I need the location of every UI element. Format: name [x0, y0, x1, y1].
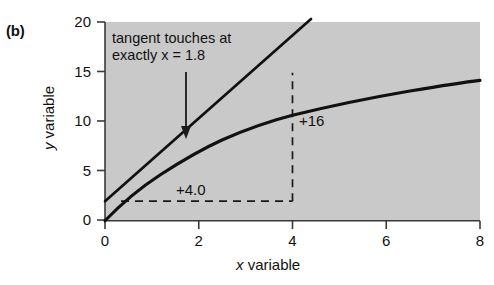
y-tick-label-15: 15: [55, 63, 91, 80]
y-axis-title-rest: variable: [40, 86, 57, 143]
panel-label: (b): [6, 22, 25, 39]
tangent-note-line2-prefix: exactly: [112, 47, 161, 63]
x-axis-title: x variable: [236, 256, 300, 273]
x-tick-label-2: 2: [185, 232, 213, 249]
y-tick-label-5: 5: [55, 162, 91, 179]
x-tick-label-6: 6: [372, 232, 400, 249]
tangent-note-line2-rest: = 1.8: [168, 47, 205, 63]
y-axis-title: y variable: [40, 63, 57, 173]
chart-svg: [0, 0, 494, 285]
figure-panel-b: (b): [0, 0, 494, 285]
y-tick-label-0: 0: [55, 211, 91, 228]
tangent-note-line2: exactly x = 1.8: [112, 47, 231, 64]
x-tick-label-8: 8: [466, 232, 494, 249]
y-tick-label-20: 20: [55, 13, 91, 30]
tangent-note: tangent touches at exactly x = 1.8: [112, 30, 231, 64]
y-axis-title-var: y: [40, 143, 57, 151]
x-axis-title-var: x: [236, 256, 244, 273]
y-tick-label-10: 10: [55, 112, 91, 129]
delta-y-label: +16: [299, 112, 324, 129]
y-axis-ticks: [97, 22, 105, 220]
x-axis-ticks: [105, 221, 480, 229]
x-tick-label-4: 4: [279, 232, 307, 249]
x-tick-label-0: 0: [91, 232, 119, 249]
delta-x-label: +4.0: [176, 181, 206, 198]
x-axis-title-rest: variable: [244, 256, 301, 273]
tangent-note-line1: tangent touches at: [112, 30, 231, 47]
